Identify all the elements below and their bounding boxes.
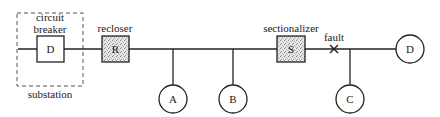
feeder-diagram: substation circuit breaker D recloser R …: [0, 0, 440, 117]
recloser-symbol: R: [112, 43, 120, 55]
recloser-label: recloser: [98, 22, 133, 34]
load-a-label: A: [169, 93, 177, 105]
sectionalizer-symbol: S: [288, 43, 294, 55]
circuit-breaker-symbol: D: [47, 43, 55, 55]
circuit-breaker-label-2: breaker: [34, 23, 67, 35]
sectionalizer-label: sectionalizer: [263, 22, 319, 34]
circuit-breaker-label-1: circuit: [36, 11, 64, 23]
load-d-label: D: [406, 43, 414, 55]
load-b-label: B: [229, 93, 236, 105]
load-c-label: C: [346, 93, 353, 105]
substation-label: substation: [28, 88, 73, 100]
fault-label: fault: [324, 31, 344, 43]
